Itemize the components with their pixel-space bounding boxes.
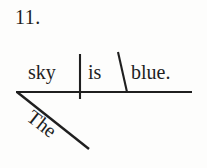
diagram-lines (0, 0, 207, 168)
predicate-adjective-slant-rule (118, 52, 127, 92)
word-predicate-adjective: blue. (131, 62, 170, 82)
word-subject: sky (28, 62, 56, 82)
word-verb: is (88, 62, 101, 82)
sentence-diagram-figure: 11. sky is blue. The (0, 0, 207, 168)
